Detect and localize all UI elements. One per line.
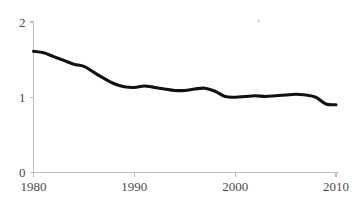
y-axis-tick-labels: 210 xyxy=(19,15,26,181)
x-tick-label-1: 1990 xyxy=(121,179,147,194)
scan-speck-artifact xyxy=(258,20,260,22)
chart-canvas: 210 1980199020002010 xyxy=(0,0,363,212)
x-axis-tick-labels: 1980199020002010 xyxy=(21,179,350,194)
data-series-line xyxy=(34,51,337,104)
x-tick-label-2: 2000 xyxy=(222,179,248,194)
x-axis-ticks xyxy=(34,173,337,177)
y-axis-group: 210 xyxy=(19,15,34,181)
y-axis-ticks xyxy=(30,22,34,173)
x-tick-label-3: 2010 xyxy=(323,179,349,194)
x-axis-group: 1980199020002010 xyxy=(21,173,350,194)
x-tick-label-0: 1980 xyxy=(21,179,47,194)
y-tick-label-0: 2 xyxy=(19,15,26,30)
y-tick-label-1: 1 xyxy=(19,90,26,105)
line-chart-figure: 210 1980199020002010 xyxy=(0,0,363,212)
